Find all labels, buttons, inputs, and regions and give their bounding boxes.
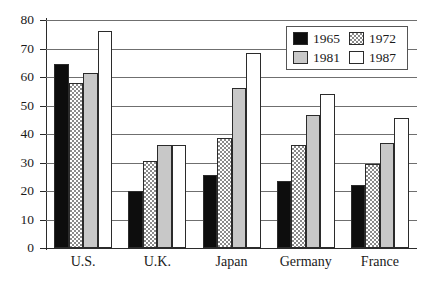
bar-chart: 01020304050607080 U.S.U.K.JapanGermanyFr… [0, 0, 430, 285]
bar-japan-1972 [217, 138, 232, 248]
bar-uk-1972 [143, 161, 158, 248]
x-axis-label-france: France [343, 255, 417, 269]
legend-swatch-1981 [293, 51, 308, 64]
legend-swatch-1965 [293, 32, 308, 45]
bar-uk-1987 [172, 145, 187, 248]
y-axis-tick-label: 80 [0, 13, 34, 27]
legend-label-1981: 1981 [313, 51, 340, 65]
bar-uk-1981 [157, 145, 172, 248]
y-axis-tick-label: 20 [0, 184, 34, 198]
legend-label-1965: 1965 [313, 32, 340, 46]
legend-item-1981: 1981 [293, 51, 345, 65]
y-axis-tick-label: 60 [0, 70, 34, 84]
x-axis-label-japan: Japan [194, 255, 268, 269]
x-axis-label-us: U.S. [46, 255, 120, 269]
legend-swatch-1987 [349, 51, 364, 64]
bar-us-1965 [54, 64, 69, 248]
x-axis-label-uk: U.K. [120, 255, 194, 269]
legend-item-1972: 1972 [349, 32, 401, 46]
bar-group [128, 20, 186, 248]
bar-japan-1987 [246, 53, 261, 248]
legend-item-1965: 1965 [293, 32, 345, 46]
y-axis-tick-label: 70 [0, 42, 34, 56]
legend-item-1987: 1987 [349, 51, 401, 65]
bar-group [54, 20, 112, 248]
y-axis-tick-label: 40 [0, 127, 34, 141]
bar-france-1965 [351, 185, 366, 248]
bar-japan-1965 [203, 175, 218, 248]
legend-swatch-1972 [349, 32, 364, 45]
bar-germany-1987 [320, 94, 335, 248]
bar-france-1972 [365, 164, 380, 248]
y-axis-tick-label: 0 [0, 241, 34, 255]
y-axis-tick-label: 30 [0, 156, 34, 170]
bar-us-1972 [69, 83, 84, 248]
x-axis-label-germany: Germany [269, 255, 343, 269]
y-axis-tick-mark [40, 248, 46, 249]
y-axis-tick-label: 10 [0, 213, 34, 227]
bar-us-1987 [98, 31, 113, 248]
y-axis-tick-label: 50 [0, 99, 34, 113]
bar-france-1987 [394, 118, 409, 248]
bar-france-1981 [380, 143, 395, 248]
legend-label-1987: 1987 [369, 51, 396, 65]
bar-uk-1965 [128, 191, 143, 248]
bar-germany-1972 [291, 145, 306, 248]
bar-germany-1981 [306, 115, 321, 248]
legend: 1965197219811987 [286, 26, 408, 70]
bar-japan-1981 [232, 88, 247, 248]
legend-label-1972: 1972 [369, 32, 396, 46]
bar-group [203, 20, 261, 248]
bar-germany-1965 [277, 181, 292, 248]
bar-us-1981 [83, 73, 98, 248]
